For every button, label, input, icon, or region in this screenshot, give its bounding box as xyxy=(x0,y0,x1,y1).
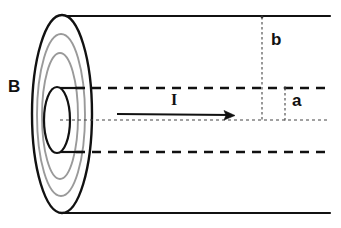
inner-radius-label: a xyxy=(292,92,301,109)
radius-b-measurement xyxy=(261,16,264,121)
radius-a-top-marker xyxy=(284,87,287,90)
radius-a-measurement xyxy=(284,87,287,121)
outer-radius-label: b xyxy=(271,31,281,48)
physics-diagram-coaxial-cylinder: B b a I xyxy=(0,0,341,228)
diagram-canvas xyxy=(0,0,341,228)
magnetic-field-label: B xyxy=(8,78,20,95)
current-arrow-shaft xyxy=(117,114,231,115)
radius-b-top-marker xyxy=(261,16,264,19)
current-direction-arrow xyxy=(117,111,235,121)
current-label: I xyxy=(171,92,177,108)
